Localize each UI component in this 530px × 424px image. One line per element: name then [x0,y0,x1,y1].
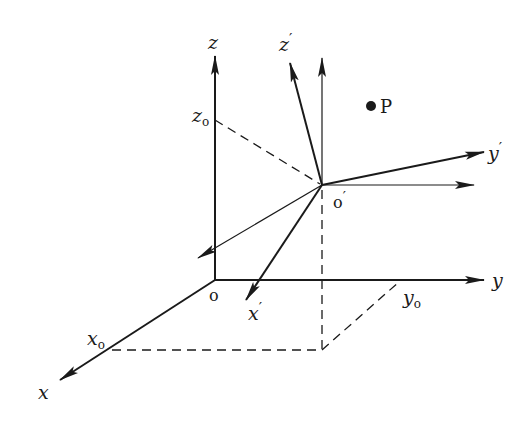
y-prime-mark: ′ [499,139,503,157]
x-prime-base: x [248,302,259,324]
y0-subscript: o [414,297,421,311]
coordinate-diagram: P z y x o z′ y′ x′ o′ zo xo yo [0,0,530,424]
x-axis-label: x [38,381,49,403]
y0-label: yo [402,286,421,311]
z-prime-axis [290,63,322,185]
x-prime-mark: ′ [259,299,263,317]
z0-subscript: o [202,115,209,129]
z-axis-label: z [207,31,219,53]
point-p-label: P [380,96,392,117]
y-prime-label: y′ [487,139,503,164]
origin-prime-mark: ′ [343,189,346,205]
y-axis-label: y [491,269,503,291]
x0-base: x [87,327,98,349]
origin-prime-label: o′ [333,189,346,212]
point-p-marker [366,101,376,111]
x-prime-label: x′ [248,299,263,324]
y0-base: y [402,286,414,308]
y-prime-base: y [487,142,499,164]
dashed-z0-to-oprime [215,120,320,184]
y-prime-axis [322,152,484,185]
dashed-y0-line [322,281,400,350]
origin-label: o [209,286,219,305]
x-axis [60,280,215,380]
x0-label: xo [87,327,105,352]
origin-prime-base: o [333,193,343,212]
z-prime-label: z′ [278,30,293,55]
z0-label: zo [191,104,209,129]
x-prime-axis [246,185,322,300]
x-parallel-axis [198,185,322,258]
z-prime-mark: ′ [289,30,293,48]
x0-subscript: o [98,338,105,352]
